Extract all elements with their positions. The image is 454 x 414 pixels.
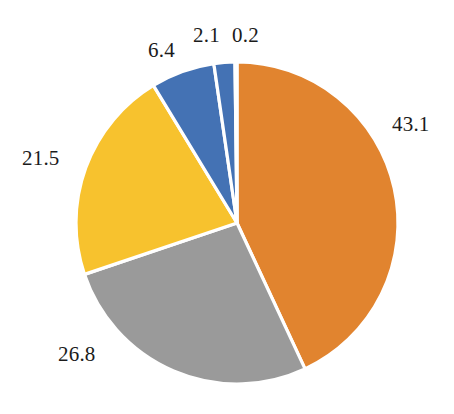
pie-chart: 43.126.821.56.42.10.2 xyxy=(0,0,454,414)
pie-slice-group xyxy=(76,62,398,384)
pie-slice-0-2 xyxy=(235,62,237,223)
pie-data-label-21-5: 21.5 xyxy=(22,148,60,169)
pie-data-label-0-2: 0.2 xyxy=(232,25,259,46)
pie-data-label-26-8: 26.8 xyxy=(58,344,96,365)
pie-data-label-6-4: 6.4 xyxy=(148,40,175,61)
pie-data-label-2-1: 2.1 xyxy=(193,25,220,46)
pie-data-label-43-1: 43.1 xyxy=(392,114,430,135)
